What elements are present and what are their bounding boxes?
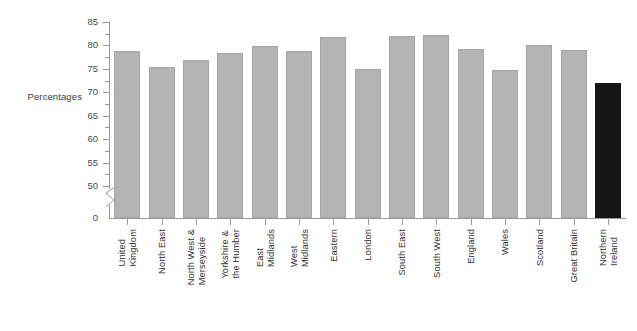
x-axis-label: North East [157,229,168,274]
y-axis-title: Percentages [6,91,82,102]
x-axis-tick [162,219,163,225]
y-axis-tick-label: 70 [74,86,98,97]
y-axis-tick-label: 60 [74,133,98,144]
y-axis-tick-label: 80 [74,39,98,50]
x-axis-tick [299,219,300,225]
y-axis-zero-label: 0 [74,212,98,223]
y-axis-tick-label: 50 [74,180,98,191]
x-axis-tick [574,219,575,225]
x-axis-tick [505,219,506,225]
x-axis-tick [539,219,540,225]
bar[interactable] [458,49,484,218]
x-axis-label: London [363,229,374,261]
y-axis-tick-label: 85 [74,16,98,27]
bar[interactable] [561,50,587,218]
bar[interactable] [286,51,312,218]
bar[interactable] [252,46,278,218]
x-axis-tick [265,219,266,225]
y-axis-tick-label: 65 [74,110,98,121]
y-axis-tick [103,116,110,117]
x-axis-tick [196,219,197,225]
x-axis-label: South West [432,229,443,278]
x-axis-tick [368,219,369,225]
bar[interactable] [526,45,552,219]
y-axis-tick [103,69,110,70]
x-axis-tick [127,219,128,225]
y-axis-tick [103,186,110,187]
x-axis-label: Yorkshire & the Humber [220,229,242,279]
bar[interactable] [595,83,621,218]
bar[interactable] [423,35,449,218]
x-axis-tick [471,219,472,225]
y-axis-tick-label: 55 [74,157,98,168]
bar[interactable] [149,67,175,218]
y-axis-tick [103,92,110,93]
y-axis-tick [103,45,110,46]
x-axis-label: East Midlands [255,229,277,267]
bar[interactable] [114,51,140,218]
y-axis-tick [103,163,110,164]
bar[interactable] [389,36,415,218]
x-axis-label: North West & Merseyside [186,229,208,285]
bar[interactable] [320,37,346,218]
x-axis-label: Northern Ireland [598,229,620,266]
x-axis-label: Scotland [535,229,546,266]
x-axis-tick [333,219,334,225]
y-axis-tick [103,139,110,140]
x-axis-label: Eastern [329,229,340,262]
y-axis-tick [103,22,110,23]
bar[interactable] [492,70,518,218]
x-axis-label: South East [397,229,408,275]
bar[interactable] [183,60,209,219]
bar[interactable] [217,53,243,218]
x-axis-tick [402,219,403,225]
x-axis-label: West Midlands [289,229,311,267]
bars-container [110,22,625,218]
x-axis-label: Wales [500,229,511,255]
x-axis-tick [230,219,231,225]
y-axis-tick-label: 75 [74,63,98,74]
bar-chart: Percentages 50556065707580850 United Kin… [0,0,637,331]
x-axis-tick [436,219,437,225]
x-axis-tick [608,219,609,225]
x-axis-label: United Kingdom [117,229,139,266]
bar[interactable] [355,69,381,218]
x-axis-label: England [466,229,477,264]
x-axis-label: Great Britain [569,229,580,283]
